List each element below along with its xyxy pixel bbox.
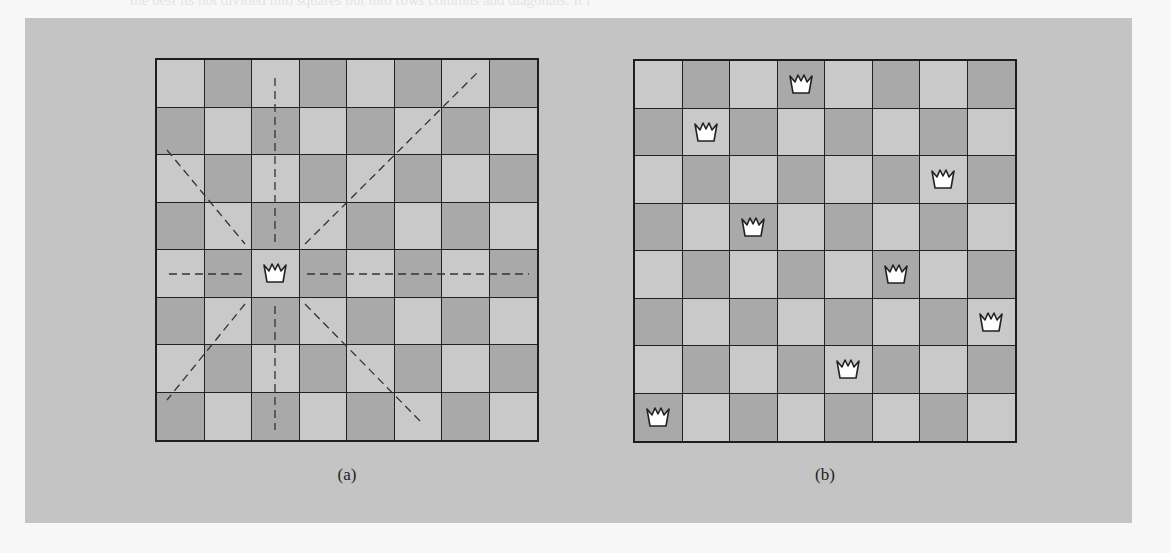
- square-r3-c6: [920, 204, 968, 252]
- square-r4-c4: [825, 251, 873, 299]
- square-r3-c7: [968, 204, 1016, 252]
- square-r6-c5: [395, 345, 443, 393]
- square-r5-c5: [395, 298, 443, 346]
- square-r2-c4: [347, 155, 395, 203]
- square-r2-c4: [825, 156, 873, 204]
- square-r2-c1: [683, 156, 731, 204]
- square-r7-c3: [300, 393, 348, 441]
- queen-icon: [882, 262, 910, 286]
- square-r2-c7: [490, 155, 538, 203]
- queen-icon: [787, 72, 815, 96]
- square-r0-c7: [968, 61, 1016, 109]
- square-r6-c5: [873, 346, 921, 394]
- square-r5-c7: [490, 298, 538, 346]
- square-r2-c1: [205, 155, 253, 203]
- square-r2-c7: [968, 156, 1016, 204]
- square-r0-c7: [490, 60, 538, 108]
- square-r0-c1: [683, 61, 731, 109]
- square-r1-c3: [778, 109, 826, 157]
- square-r7-c0: [157, 393, 205, 441]
- square-r3-c7: [490, 203, 538, 251]
- square-r0-c5: [873, 61, 921, 109]
- square-r6-c1: [683, 346, 731, 394]
- square-r5-c6: [920, 299, 968, 347]
- square-r1-c1: [205, 108, 253, 156]
- square-r6-c0: [635, 346, 683, 394]
- square-r7-c6: [920, 394, 968, 442]
- square-r7-c4: [825, 394, 873, 442]
- square-r3-c2: [730, 204, 778, 252]
- board-b: [633, 59, 1017, 443]
- square-r2-c0: [635, 156, 683, 204]
- square-r1-c4: [347, 108, 395, 156]
- square-r2-c0: [157, 155, 205, 203]
- square-r1-c3: [300, 108, 348, 156]
- square-r6-c7: [968, 346, 1016, 394]
- square-r0-c3: [778, 61, 826, 109]
- square-r5-c0: [635, 299, 683, 347]
- square-r5-c6: [442, 298, 490, 346]
- square-r0-c5: [395, 60, 443, 108]
- square-r6-c2: [730, 346, 778, 394]
- square-r3-c5: [873, 204, 921, 252]
- square-r4-c2: [730, 251, 778, 299]
- square-r1-c7: [968, 109, 1016, 157]
- square-r0-c0: [157, 60, 205, 108]
- square-r6-c6: [920, 346, 968, 394]
- square-r2-c6: [442, 155, 490, 203]
- square-r0-c3: [300, 60, 348, 108]
- queen-icon: [834, 357, 862, 381]
- square-r1-c1: [683, 109, 731, 157]
- square-r2-c6: [920, 156, 968, 204]
- square-r5-c4: [825, 299, 873, 347]
- square-r1-c6: [920, 109, 968, 157]
- square-r6-c0: [157, 345, 205, 393]
- square-r6-c3: [300, 345, 348, 393]
- square-r5-c5: [873, 299, 921, 347]
- square-r1-c5: [395, 108, 443, 156]
- square-r6-c4: [825, 346, 873, 394]
- square-r7-c5: [395, 393, 443, 441]
- square-r4-c1: [683, 251, 731, 299]
- square-r4-c2: [252, 250, 300, 298]
- square-r6-c1: [205, 345, 253, 393]
- square-r6-c7: [490, 345, 538, 393]
- square-r3-c1: [683, 204, 731, 252]
- square-r7-c1: [683, 394, 731, 442]
- queen-icon: [929, 167, 957, 191]
- square-r3-c3: [778, 204, 826, 252]
- square-r4-c6: [442, 250, 490, 298]
- square-r2-c5: [395, 155, 443, 203]
- square-r1-c2: [252, 108, 300, 156]
- square-r5-c2: [730, 299, 778, 347]
- square-r2-c2: [252, 155, 300, 203]
- square-r6-c6: [442, 345, 490, 393]
- bleed-line: the best its not divided into squares bu…: [130, 0, 1171, 9]
- square-r0-c4: [347, 60, 395, 108]
- square-r2-c3: [300, 155, 348, 203]
- square-r0-c2: [252, 60, 300, 108]
- square-r2-c2: [730, 156, 778, 204]
- square-r5-c4: [347, 298, 395, 346]
- square-r7-c3: [778, 394, 826, 442]
- queen-icon: [739, 215, 767, 239]
- square-r1-c5: [873, 109, 921, 157]
- square-r4-c6: [920, 251, 968, 299]
- queen-icon: [261, 261, 289, 285]
- square-r0-c6: [442, 60, 490, 108]
- square-r0-c0: [635, 61, 683, 109]
- square-r2-c5: [873, 156, 921, 204]
- square-r4-c4: [347, 250, 395, 298]
- square-r0-c2: [730, 61, 778, 109]
- square-r4-c3: [778, 251, 826, 299]
- square-r7-c5: [873, 394, 921, 442]
- square-r1-c0: [157, 108, 205, 156]
- queen-icon: [977, 310, 1005, 334]
- square-r7-c0: [635, 394, 683, 442]
- square-r4-c0: [157, 250, 205, 298]
- square-r5-c3: [778, 299, 826, 347]
- square-r7-c1: [205, 393, 253, 441]
- square-r0-c1: [205, 60, 253, 108]
- square-r7-c7: [490, 393, 538, 441]
- square-r4-c5: [395, 250, 443, 298]
